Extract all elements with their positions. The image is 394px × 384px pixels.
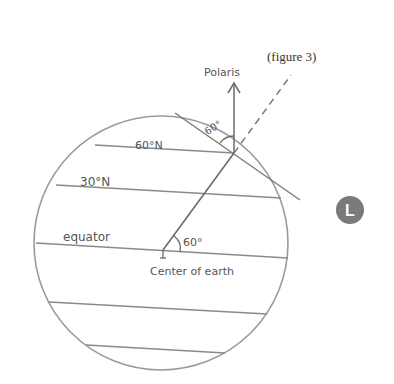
lat-30n-label: 30°N — [80, 175, 110, 189]
center-angle-label: 60° — [183, 236, 203, 249]
equator-line — [36, 243, 288, 258]
horizon-tangent-line — [175, 113, 300, 200]
figure-caption: (figure 3) — [267, 49, 316, 64]
radius-extension-dashed-line — [234, 75, 291, 153]
latitude-60n-line — [95, 145, 234, 153]
polaris-label: Polaris — [204, 66, 240, 79]
latitude-60s-line — [86, 345, 225, 353]
center-angle-arc — [174, 236, 180, 252]
earth-polaris-diagram: (figure 3) Polaris 60° 60°N 30°N equator… — [0, 0, 394, 384]
equator-label: equator — [63, 230, 110, 244]
observer-angle-label: 60° — [203, 118, 224, 137]
center-of-earth-label: Center of earth — [150, 265, 234, 278]
lat-60n-label: 60°N — [135, 139, 163, 152]
latitude-30s-line — [49, 302, 267, 314]
badge-letter: L — [345, 202, 355, 219]
